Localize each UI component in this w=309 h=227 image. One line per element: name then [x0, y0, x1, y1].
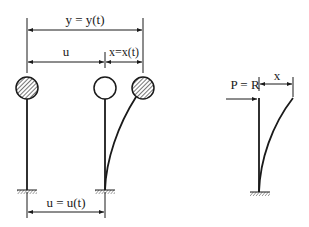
relative-displacement-dimension: x=x(t) — [106, 45, 142, 62]
ground-support-icon — [95, 190, 115, 194]
displaced-oscillator — [94, 77, 154, 194]
force-label: P = R — [230, 77, 260, 92]
ground-support-icon — [250, 192, 270, 196]
ground-displacement-label: u = u(t) — [46, 195, 85, 210]
empty-mass-icon — [94, 77, 116, 99]
ground-displacement-dimension: u = u(t) — [28, 195, 104, 212]
relative-displacement-label: x=x(t) — [109, 45, 139, 59]
deflected-cantilever — [259, 98, 293, 192]
oscillator-diagram: y = y(t) u x=x(t) u = u(t) P = R — [0, 0, 309, 227]
total-displacement-dimension: y = y(t) — [28, 12, 142, 30]
hatched-mass-icon — [16, 77, 38, 99]
ground-support-icon — [17, 190, 37, 194]
ground-distance-dimension: u — [28, 44, 104, 62]
static-deflection-label: x — [274, 68, 281, 83]
ground-distance-label: u — [63, 44, 70, 59]
hatched-mass-deflected-icon — [132, 77, 154, 99]
initial-oscillator — [16, 77, 38, 194]
deflected-column — [105, 97, 136, 190]
static-cantilever: P = R x — [226, 68, 293, 196]
total-displacement-label: y = y(t) — [65, 12, 104, 27]
